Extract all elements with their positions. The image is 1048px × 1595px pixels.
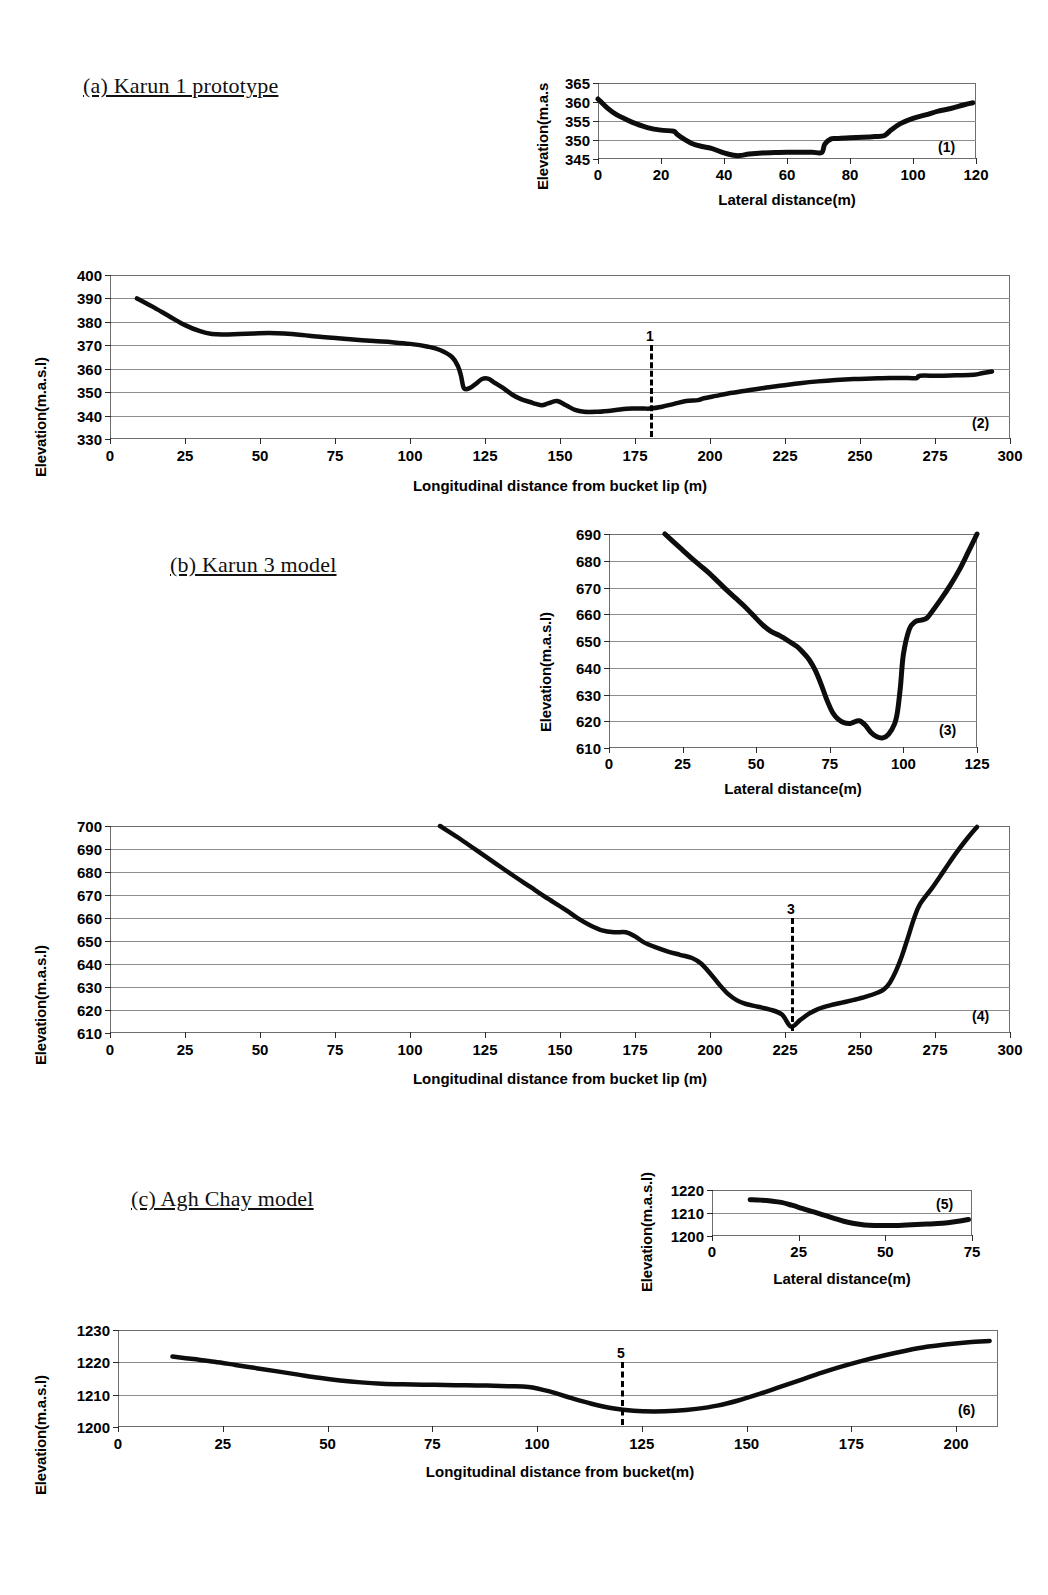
chart-6-panel-id: (6) [958,1402,975,1418]
x-tick-label: 40 [716,167,733,182]
y-tick [105,849,111,850]
chart-panel-6: Elevation(m.a.s.l) 1200121012201230 5 02… [20,1310,1020,1515]
x-tick [724,158,725,164]
chart-6-x-ticklabels: 0255075100125150175200 [118,1436,998,1454]
reference-marker-label: 3 [787,901,795,917]
chart-6-series-line [118,1330,998,1427]
x-tick [712,1235,713,1241]
x-tick-label: 225 [772,1042,797,1057]
x-tick [598,158,599,164]
x-tick-label: 75 [424,1436,441,1451]
y-tick-label: 340 [77,409,102,424]
x-tick [335,438,336,444]
y-tick [604,588,610,589]
y-tick-label: 630 [77,980,102,995]
y-tick [604,614,610,615]
x-tick [683,747,684,753]
y-tick-label: 1230 [77,1323,110,1338]
chart-6-y-ticklabels: 1200121012201230 [46,1310,110,1432]
y-tick-label: 610 [77,1026,102,1041]
y-tick [604,534,610,535]
x-tick-label: 0 [708,1244,716,1259]
x-tick [799,1235,800,1241]
x-tick [260,1032,261,1038]
section-title-b: (b) Karun 3 model [170,552,337,578]
y-tick-label: 610 [576,741,601,756]
chart-1-panel-id: (1) [938,139,955,155]
x-tick-label: 175 [622,448,647,463]
y-tick [105,275,111,276]
x-tick-label: 150 [734,1436,759,1451]
x-tick-label: 100 [891,756,916,771]
y-tick-label: 1210 [77,1388,110,1403]
y-tick [105,918,111,919]
x-tick [1010,438,1011,444]
x-tick [850,158,851,164]
chart-4-x-ticklabels: 0255075100125150175200225250275300 [110,1042,1010,1060]
y-tick-label: 630 [576,688,601,703]
x-tick [635,1032,636,1038]
section-title-c: (c) Agh Chay model [131,1186,314,1212]
y-tick [593,83,599,84]
y-tick [604,641,610,642]
figure-sheet: (a) Karun 1 prototype (b) Karun 3 model … [0,0,1048,1595]
y-tick [105,941,111,942]
x-tick-label: 75 [964,1244,981,1259]
chart-4-panel-id: (4) [972,1008,989,1024]
x-tick-label: 75 [327,448,344,463]
y-tick-label: 670 [77,888,102,903]
y-tick [113,1330,119,1331]
x-tick-label: 125 [472,1042,497,1057]
chart-6-plot-area: 5 [118,1330,998,1427]
chart-4-x-axis-label: Longitudinal distance from bucket lip (m… [413,1070,707,1087]
y-tick [105,345,111,346]
x-tick [110,1032,111,1038]
x-tick-label: 25 [177,448,194,463]
y-tick [105,1010,111,1011]
x-tick-label: 25 [177,1042,194,1057]
x-tick [935,438,936,444]
x-tick [860,1032,861,1038]
x-tick-label: 25 [214,1436,231,1451]
x-tick [756,747,757,753]
section-title-a: (a) Karun 1 prototype [83,73,278,99]
x-tick-label: 0 [114,1436,122,1451]
y-tick-label: 1200 [77,1420,110,1435]
chart-panel-4: Elevation(m.a.s.l) 610620630640650660670… [20,815,1020,1090]
chart-6-x-axis-label: Longitudinal distance from bucket(m) [426,1463,694,1480]
x-tick-label: 0 [605,756,613,771]
y-tick [593,121,599,122]
y-tick [105,392,111,393]
x-tick [485,438,486,444]
x-tick-label: 75 [327,1042,344,1057]
x-tick-label: 50 [252,448,269,463]
y-tick-label: 1220 [671,1183,704,1198]
x-tick-label: 50 [252,1042,269,1057]
x-tick [903,747,904,753]
chart-panel-3: Elevation(m.a.s.l) 610620630640650660670… [515,520,990,795]
chart-3-y-ticklabels: 610620630640650660670680690 [549,520,601,750]
x-tick-label: 120 [963,167,988,182]
x-tick [710,438,711,444]
x-tick [860,438,861,444]
x-tick-label: 50 [748,756,765,771]
x-tick-label: 0 [106,448,114,463]
x-tick-label: 100 [397,448,422,463]
x-tick-label: 225 [772,448,797,463]
y-tick-label: 660 [576,607,601,622]
x-tick-label: 300 [997,1042,1022,1057]
y-tick-label: 690 [576,527,601,542]
x-tick-label: 50 [877,1244,894,1259]
y-tick [105,895,111,896]
x-tick-label: 50 [319,1436,336,1451]
chart-3-x-ticklabels: 0255075100125 [609,756,977,774]
y-tick [707,1190,713,1191]
x-tick-label: 0 [106,1042,114,1057]
chart-2-y-ticklabels: 330340350360370380390400 [50,262,102,442]
x-tick [328,1426,329,1432]
x-tick [635,438,636,444]
y-tick-label: 640 [576,661,601,676]
y-tick [113,1362,119,1363]
reference-marker-label: 1 [646,328,654,344]
x-tick-label: 80 [842,167,859,182]
